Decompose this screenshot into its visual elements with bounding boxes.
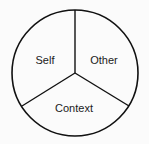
segment-label-other: Other — [90, 54, 118, 66]
segment-label-self: Self — [36, 54, 56, 66]
self-other-context-diagram: Self Other Context — [0, 0, 149, 144]
segment-label-context: Context — [55, 102, 93, 114]
